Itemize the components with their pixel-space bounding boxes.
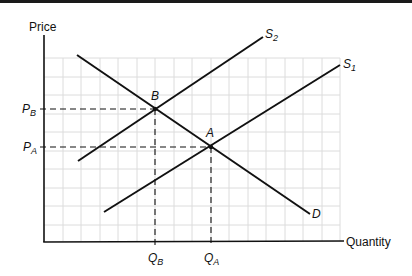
curve-label-d: D: [312, 207, 321, 221]
equilibrium-point-a: [209, 145, 213, 149]
supply-curve-s1: [104, 65, 340, 212]
price-label-pa: PA: [23, 140, 37, 156]
supply-demand-diagram: Price Quantity S2 S1 D B A PB PA QB QA: [0, 0, 412, 276]
x-axis: [43, 241, 344, 242]
y-axis-label: Price: [29, 20, 57, 34]
equilibrium-point-b: [153, 107, 157, 111]
curve-label-s2: S2: [265, 27, 278, 43]
demand-curve-d: [77, 55, 310, 214]
supply-curve-s2: [78, 37, 263, 161]
quantity-label-qb: QB: [148, 251, 163, 267]
quantity-label-qa: QA: [204, 251, 219, 267]
x-axis-label: Quantity: [346, 235, 391, 249]
price-label-pb: PB: [22, 102, 36, 118]
point-label-a: A: [205, 126, 214, 140]
point-label-b: B: [151, 89, 159, 103]
curve-label-s1: S1: [343, 57, 356, 73]
